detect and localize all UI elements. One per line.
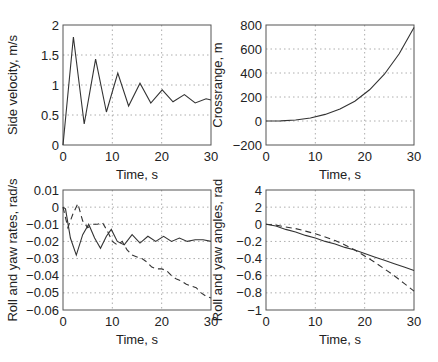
y-tick-label: 0 [255, 114, 262, 129]
y-tick-label: 1.5 [41, 48, 59, 63]
x-axis-label: Time, s [116, 167, 159, 182]
y-tick-label: −0.2 [236, 234, 262, 249]
x-tick-label: 0 [262, 314, 269, 329]
series-line-yaw-rate [63, 204, 211, 298]
x-axis-label: Time, s [319, 332, 362, 347]
x-tick-label: 0 [59, 314, 66, 329]
x-axis-label: Time, s [319, 167, 362, 182]
x-tick-label: 30 [407, 149, 421, 164]
y-tick-label: −0.6 [236, 268, 262, 283]
series-line-roll-rate [63, 207, 211, 255]
y-axis-label: Side velocity, m/s [5, 34, 20, 135]
x-axis-label: Time, s [116, 332, 159, 347]
y-axis-label: Roll and yaw angles, rad [210, 179, 225, 321]
y-tick-label: 1 [52, 78, 59, 93]
x-tick-label: 10 [308, 314, 322, 329]
axes-frame [266, 25, 414, 145]
series-line-yaw-angle [266, 224, 414, 291]
y-tick-label: −0.04 [26, 268, 59, 283]
y-axis-label: Roll and yaw rates, rad/s [5, 178, 20, 322]
axes-frame [63, 25, 211, 145]
y-tick-label: −0.06 [26, 303, 59, 318]
y-tick-label: −1 [247, 303, 262, 318]
y-tick-label: 0.5 [41, 108, 59, 123]
y-tick-label: −0.4 [236, 251, 262, 266]
series-line-crossrange [266, 27, 414, 121]
series-line-roll-angle [266, 224, 414, 270]
y-tick-label: 800 [240, 18, 262, 33]
subplot-2: −20002004006008000102030Time, sCrossrang… [210, 18, 421, 183]
x-tick-label: 0 [59, 149, 66, 164]
y-tick-label: −0.03 [26, 251, 59, 266]
x-tick-label: 0 [262, 149, 269, 164]
y-tick-label: −0.01 [26, 217, 59, 232]
y-tick-label: −0.05 [26, 285, 59, 300]
x-tick-label: 30 [204, 149, 218, 164]
x-tick-label: 20 [357, 314, 371, 329]
x-tick-label: 10 [105, 149, 119, 164]
x-tick-label: 10 [308, 149, 322, 164]
x-tick-label: 20 [154, 314, 168, 329]
y-tick-label: 0 [52, 200, 59, 215]
x-tick-label: 30 [407, 314, 421, 329]
x-tick-label: 10 [105, 314, 119, 329]
y-tick-label: 200 [240, 90, 262, 105]
subplot-4: −1−0.8−0.6−0.4−0.20240102030Time, sRoll … [210, 179, 421, 347]
x-tick-label: 20 [154, 149, 168, 164]
axes-frame [266, 190, 414, 310]
y-tick-label: 0 [255, 217, 262, 232]
x-tick-label: 20 [357, 149, 371, 164]
y-tick-label: −200 [233, 138, 262, 153]
y-tick-label: 0.01 [34, 183, 59, 198]
y-tick-label: 0 [52, 138, 59, 153]
y-tick-label: −0.8 [236, 285, 262, 300]
subplot-3: −0.06−0.05−0.04−0.03−0.02−0.0100.0101020… [5, 178, 218, 347]
figure-2x2-subplots: 00.511.520102030Time, sSide velocity, m/… [0, 0, 438, 362]
series-line-side-velocity [63, 37, 211, 145]
y-tick-label: 400 [240, 66, 262, 81]
y-tick-label: 2 [52, 18, 59, 33]
y-tick-label: 600 [240, 42, 262, 57]
y-tick-label: 2 [255, 200, 262, 215]
subplot-1: 00.511.520102030Time, sSide velocity, m/… [5, 18, 218, 183]
y-axis-label: Crossrange, m [210, 42, 225, 127]
y-tick-label: 4 [255, 183, 262, 198]
axes-frame [63, 190, 211, 310]
y-tick-label: −0.02 [26, 234, 59, 249]
